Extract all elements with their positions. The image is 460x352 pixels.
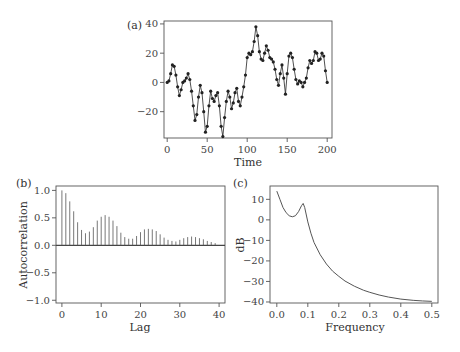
- panel-c-x-axis: 0.00.10.20.30.40.5: [269, 303, 440, 320]
- x-tick-label: 100: [238, 144, 257, 155]
- panel-a-x-axis: 050100150200: [164, 138, 337, 155]
- panel-a-label: (a): [127, 19, 142, 32]
- x-tick-label: 0.0: [269, 309, 285, 320]
- y-tick-label: −40: [243, 296, 264, 307]
- x-tick-label: 0.3: [362, 309, 378, 320]
- y-tick-label: −30: [243, 276, 264, 287]
- panel-c-ylabel: dB: [234, 237, 247, 252]
- panel-b-acf: (b) 1.00.50.0−0.5−1.0 010203040 Lag Auto…: [16, 177, 225, 334]
- y-tick-label: 0: [258, 214, 264, 225]
- x-tick-label: 30: [173, 309, 186, 320]
- x-tick-label: 0.2: [331, 309, 347, 320]
- panel-b-bars: [56, 190, 225, 245]
- y-tick-label: 1.0: [34, 185, 50, 196]
- y-tick-label: 0.5: [34, 212, 50, 223]
- x-tick-label: 50: [201, 144, 214, 155]
- panel-b-ylabel: Autocorrelation: [17, 201, 30, 290]
- panel-a-y-axis: −2002040: [137, 18, 164, 117]
- figure-canvas: (a) −2002040 050100150200 Time (b) 1.00.…: [0, 0, 460, 352]
- x-tick-label: 0.1: [300, 309, 316, 320]
- x-tick-label: 0: [164, 144, 170, 155]
- y-tick-label: 0.0: [34, 240, 50, 251]
- panel-c-spectrum: (c) 100−10−20−30−40 0.00.10.20.30.40.5 F…: [233, 177, 440, 334]
- y-tick-label: 20: [145, 48, 158, 59]
- panel-a-time-series: (a) −2002040 050100150200 Time: [127, 18, 337, 169]
- y-tick-label: −1.0: [26, 295, 50, 306]
- panel-b-xlabel: Lag: [130, 321, 151, 334]
- x-tick-label: 0: [59, 309, 65, 320]
- panel-a-series: [166, 25, 329, 138]
- x-tick-label: 0.4: [393, 309, 409, 320]
- y-tick-label: 40: [145, 18, 158, 29]
- x-tick-label: 0.5: [424, 309, 440, 320]
- x-tick-label: 150: [278, 144, 297, 155]
- panel-c-line: [277, 191, 432, 301]
- x-tick-label: 40: [213, 309, 226, 320]
- x-tick-label: 10: [95, 309, 108, 320]
- y-tick-label: 0: [152, 77, 158, 88]
- y-tick-label: −20: [243, 255, 264, 266]
- x-tick-label: 20: [134, 309, 147, 320]
- x-tick-label: 200: [318, 144, 337, 155]
- panel-a-xlabel: Time: [234, 156, 262, 169]
- panel-b-label: (b): [16, 177, 32, 190]
- panel-c-label: (c): [233, 177, 248, 190]
- panel-c-xlabel: Frequency: [325, 321, 385, 334]
- y-tick-label: −20: [137, 106, 158, 117]
- panel-b-x-axis: 010203040: [59, 303, 226, 320]
- panel-b-y-axis: 1.00.50.0−0.5−1.0: [26, 185, 56, 306]
- y-tick-label: 10: [251, 194, 264, 205]
